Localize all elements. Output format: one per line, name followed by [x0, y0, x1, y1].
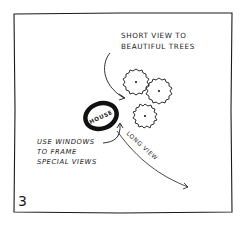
tree-icon [146, 78, 172, 104]
short-view-label-line2: BEAUTIFUL TREES [121, 42, 195, 51]
diagram-canvas: SHORT VIEW TO BEAUTIFUL TREES HOUSE USE … [0, 0, 245, 228]
short-view-label-line1: SHORT VIEW TO [121, 31, 187, 40]
tree-icon [123, 69, 149, 95]
house-icon: HOUSE [82, 99, 121, 133]
long-view-arrow-icon [117, 131, 188, 189]
windows-label-line3: SPECIAL VIEWS [37, 158, 97, 166]
windows-label-line2: TO FRAME [37, 148, 77, 156]
windows-label-line1: USE WINDOWS [37, 138, 95, 146]
tree-icon [133, 104, 157, 128]
long-view-label: LONG VIEW [125, 130, 159, 162]
panel-number: 3 [18, 193, 28, 209]
short-view-arrow-icon [105, 53, 125, 100]
